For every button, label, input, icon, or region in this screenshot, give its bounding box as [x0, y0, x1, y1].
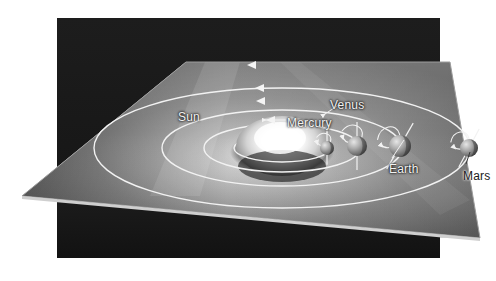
sun-shadow-underside — [238, 150, 326, 182]
sun-core-glow — [254, 122, 306, 154]
figure-root: SunMercuryVenusEarthMars — [0, 0, 496, 281]
solar-system-diagram — [0, 0, 496, 281]
